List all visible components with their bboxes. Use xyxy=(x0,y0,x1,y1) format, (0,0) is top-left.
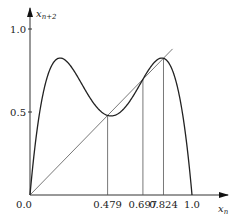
y-tick-label: 0.5 xyxy=(10,107,26,118)
y-ticks: 0.51.0 xyxy=(10,24,32,118)
x-tick-label: 0.824 xyxy=(149,199,178,210)
second-iterate-curve xyxy=(30,58,192,195)
x-tick-label: 0.479 xyxy=(93,199,122,210)
x-ticks: 0.00.4790.6970.8241.0 xyxy=(16,199,200,210)
vertical-lines xyxy=(108,58,164,195)
y-axis-label: xn+2 xyxy=(36,8,57,21)
diagonal-line xyxy=(30,49,173,195)
x-tick-label: 0.0 xyxy=(16,199,32,210)
x-axis-label: xn xyxy=(218,203,229,216)
x-tick-label: 1.0 xyxy=(184,199,200,210)
y-tick-label: 1.0 xyxy=(10,24,26,35)
chart-canvas: 0.51.0 0.00.4790.6970.8241.0 xn+2 xn xyxy=(0,0,240,220)
